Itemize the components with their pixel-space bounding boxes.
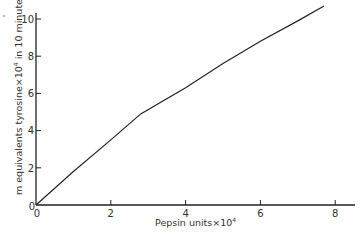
y-axis-title: m equivalents tyrosine×104 in 10 minutes: [12, 0, 24, 195]
y-tick-label-4: 4: [28, 125, 34, 136]
y-tick-label-8: 8: [28, 51, 34, 62]
data-line: [36, 6, 324, 205]
x-tick-label-8: 8: [332, 208, 338, 219]
x-tick-label-6: 6: [257, 208, 263, 219]
x-ticks: [111, 200, 335, 205]
y-tick-label-2: 2: [28, 163, 34, 174]
y-tick-label-6: 6: [28, 88, 34, 99]
x-tick-label-0: 0: [34, 208, 40, 219]
y-ticks: [36, 19, 41, 168]
x-axis-title: Pepsin units×104: [155, 216, 236, 228]
speck-mark: [3, 15, 5, 17]
x-tick-label-2: 2: [108, 208, 114, 219]
line-chart: 0 2 4 6 8 10 0 2 4 6 8 Pepsin units×104 …: [0, 0, 363, 235]
